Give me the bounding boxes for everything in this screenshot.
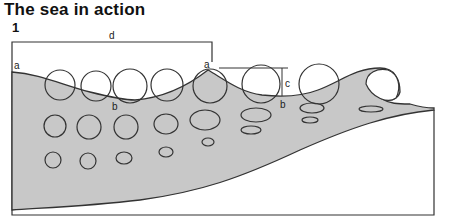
label-wavelength: d — [109, 30, 115, 41]
wave-diagram: d a a b b c — [0, 0, 449, 218]
label-trough-right: b — [280, 99, 286, 110]
label-trough-left: b — [112, 101, 118, 112]
label-wave-height: c — [285, 78, 290, 89]
label-crest-right: a — [204, 59, 210, 70]
label-crest-left: a — [14, 60, 20, 71]
wavelength-bracket — [12, 42, 212, 72]
